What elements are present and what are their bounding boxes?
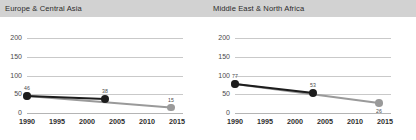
data-point-gray-2014: [375, 99, 383, 107]
data-label-dark-1990: 46: [18, 85, 36, 91]
gridline-0: [235, 113, 391, 114]
x-tick-label-1990: 1990: [222, 117, 248, 126]
x-tick-label-2005: 2005: [312, 117, 338, 126]
chart-panel-middle-east-north-africa: 0501001502001990199520002005201020152677…: [208, 17, 416, 140]
x-tick-label-2000: 2000: [282, 117, 308, 126]
y-tick-label-50: 50: [208, 90, 230, 98]
x-tick-label-2010: 2010: [134, 117, 160, 126]
y-tick-label-150: 150: [0, 53, 22, 61]
gridline-150: [235, 57, 391, 58]
y-tick-label-100: 100: [0, 72, 22, 80]
x-tick-label-2015: 2015: [164, 117, 190, 126]
data-point-dark-2003: [309, 89, 317, 97]
data-point-dark-1990: [231, 80, 239, 88]
data-point-dark-2003: [101, 95, 109, 103]
y-tick-label-200: 200: [208, 34, 230, 42]
chart-board: Europe & Central Asia Middle East & Nort…: [0, 0, 416, 140]
panel-title-right: Middle East & North Africa: [213, 0, 304, 17]
x-tick-label-1995: 1995: [44, 117, 70, 126]
plot-area: 0501001502001990199520002005201020152677…: [208, 17, 416, 140]
series-line-dark: [235, 83, 313, 94]
x-tick-label-2010: 2010: [342, 117, 368, 126]
panel-title-left: Europe & Central Asia: [5, 0, 82, 17]
x-tick-label-2000: 2000: [74, 117, 100, 126]
data-label-dark-2003: 38: [96, 88, 114, 94]
y-tick-label-200: 200: [0, 34, 22, 42]
x-tick-label-1990: 1990: [14, 117, 40, 126]
plot-area: 0501001502001990199520002005201020151546…: [0, 17, 208, 140]
x-tick-label-2015: 2015: [372, 117, 398, 126]
gridline-150: [27, 57, 183, 58]
data-label-gray-2014: 26: [370, 108, 388, 114]
data-point-gray-2014: [167, 104, 175, 112]
gridline-100: [235, 76, 391, 77]
data-label-gray-2014: 15: [162, 97, 180, 103]
x-tick-label-1995: 1995: [252, 117, 278, 126]
data-point-dark-1990: [23, 92, 31, 100]
gridline-200: [235, 38, 391, 39]
data-label-dark-1990: 77: [226, 73, 244, 79]
y-tick-label-0: 0: [208, 109, 230, 117]
data-label-dark-2003: 53: [304, 82, 322, 88]
gridline-100: [27, 76, 183, 77]
gridline-0: [27, 113, 183, 114]
y-tick-label-50: 50: [0, 90, 22, 98]
y-tick-label-150: 150: [208, 53, 230, 61]
y-tick-label-0: 0: [0, 109, 22, 117]
x-tick-label-2005: 2005: [104, 117, 130, 126]
gridline-200: [27, 38, 183, 39]
chart-panel-europe-central-asia: 0501001502001990199520002005201020151546…: [0, 17, 208, 140]
